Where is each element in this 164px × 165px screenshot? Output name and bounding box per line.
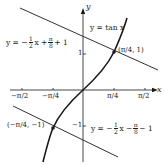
x-tick-label-neg-pi-4: −π/4 — [42, 93, 59, 100]
y-tick-label-1: 1 — [78, 50, 82, 57]
point-label-upper: (π/4, 1) — [118, 47, 144, 54]
tangent-point-upper — [112, 50, 116, 54]
tangent-equation-upper: y = − 1 2 x + π 8 + 1 — [6, 36, 68, 49]
eq-upper-mid: x + — [34, 39, 47, 47]
tangent-point-lower — [51, 126, 55, 130]
eq-lower-frac2: π 8 — [133, 122, 138, 135]
eq-upper-frac2: π 8 — [48, 36, 53, 49]
eq-lower-frac1: 1 2 — [114, 122, 119, 135]
eq-upper-frac1: 1 2 — [29, 36, 34, 49]
tangent-equation-lower: y = − 1 2 x − π 8 − 1 — [91, 122, 153, 135]
x-axis-label: x — [157, 86, 162, 94]
tangent-lines-figure: y x −π/2 −π/4 π/4 π/2 1 −1 y = tan x y =… — [0, 0, 164, 165]
eq-lower-tail: − 1 — [139, 125, 152, 133]
plot-graphics — [0, 0, 164, 165]
eq-upper-tail: + 1 — [54, 39, 67, 47]
x-tick-label-neg-pi-2: −π/2 — [11, 93, 28, 100]
x-tick-label-pi-4: π/4 — [107, 93, 118, 100]
curve-label: y = tan x — [90, 24, 124, 32]
point-label-lower: (−π/4, −1) — [7, 122, 45, 129]
y-axis-label: y — [86, 3, 91, 11]
eq-lower-lhs: y = − — [91, 125, 113, 133]
x-tick-label-pi-2: π/2 — [138, 93, 149, 100]
eq-lower-mid: x − — [119, 125, 132, 133]
eq-upper-lhs: y = − — [6, 39, 28, 47]
y-axis-arrow-icon — [81, 8, 85, 14]
y-tick-label-neg-1: −1 — [72, 122, 82, 129]
